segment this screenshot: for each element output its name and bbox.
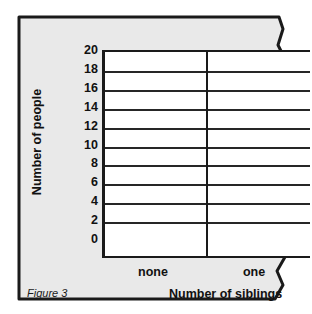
y-tick-20: 20 [58,44,98,57]
y-axis-tick-labels: 20 18 16 14 12 10 8 6 4 2 0 [55,50,98,258]
torn-paper-panel: 20 18 16 14 12 10 8 6 4 2 0 Number of pe… [17,15,293,301]
y-tick-2: 2 [58,214,98,227]
y-tick-14: 14 [58,100,98,113]
y-tick-0: 0 [58,233,98,246]
category-divider-line [206,52,208,256]
plot-area [102,50,310,258]
y-tick-4: 4 [58,195,98,208]
y-axis-title: Number of people [30,77,44,207]
y-tick-8: 8 [58,157,98,170]
figure-caption: Figure 3 [27,287,67,299]
plot-frame [102,50,310,258]
x-axis-title: Number of siblings [169,287,282,301]
y-tick-6: 6 [58,176,98,189]
y-tick-10: 10 [58,138,98,151]
x-category-label-one: one [243,265,265,279]
y-tick-12: 12 [58,119,98,132]
figure-container: 20 18 16 14 12 10 8 6 4 2 0 Number of pe… [0,0,312,314]
y-tick-18: 18 [58,63,98,76]
y-tick-16: 16 [58,82,98,95]
x-category-label-none: none [138,265,168,279]
